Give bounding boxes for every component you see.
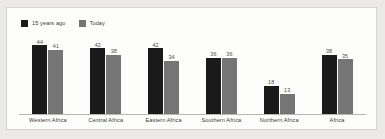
legend-swatch-15-years-ago [21, 20, 28, 27]
bar [48, 50, 63, 114]
bar-group: 4238 [77, 32, 135, 114]
x-axis-labels: Western AfricaCentral AfricaEastern Afri… [19, 117, 366, 123]
bar-column: 42 [148, 32, 163, 114]
bar-group: 4441 [19, 32, 77, 114]
bar-column: 34 [164, 32, 179, 114]
bar [264, 86, 279, 114]
bar-column: 41 [48, 32, 63, 114]
x-axis-label: Africa [308, 117, 366, 123]
bar [322, 55, 337, 114]
bar-column: 38 [322, 32, 337, 114]
bar-column: 36 [206, 32, 221, 114]
bar-group: 3636 [192, 32, 250, 114]
bar-column: 13 [280, 32, 295, 114]
legend-entry-today: Today [79, 20, 105, 27]
bar-value-label: 35 [342, 53, 348, 59]
bar-value-label: 34 [168, 54, 174, 60]
bar-column: 42 [90, 32, 105, 114]
bar-value-label: 36 [210, 51, 216, 57]
bar-value-label: 18 [268, 79, 274, 85]
bar-value-label: 42 [95, 42, 101, 48]
bar-value-label: 13 [284, 87, 290, 93]
bar-group: 1813 [250, 32, 308, 114]
bar-group: 3835 [308, 32, 366, 114]
bar [338, 59, 353, 114]
bar-column: 18 [264, 32, 279, 114]
legend-swatch-today [79, 20, 86, 27]
bar [148, 48, 163, 114]
bar [222, 58, 237, 114]
chart-card: 15 years ago Today 444142384234363618133… [6, 7, 377, 130]
x-axis-label: Western Africa [19, 117, 77, 123]
bar [280, 94, 295, 114]
x-axis-line [19, 114, 366, 115]
bar-value-label: 44 [37, 39, 43, 45]
bar-value-label: 38 [111, 48, 117, 54]
bar [164, 61, 179, 114]
bar-column: 36 [222, 32, 237, 114]
x-axis-label: Northern Africa [250, 117, 308, 123]
legend-entry-15-years-ago: 15 years ago [21, 20, 66, 27]
plot-area: 444142384234363618133835 [19, 32, 366, 114]
bar [106, 55, 121, 114]
bar-column: 44 [32, 32, 47, 114]
bar-value-label: 36 [226, 51, 232, 57]
bar-group: 4234 [135, 32, 193, 114]
bar-column: 35 [338, 32, 353, 114]
chart-legend: 15 years ago Today [21, 19, 105, 28]
bar [32, 45, 47, 114]
x-axis-label: Southern Africa [192, 117, 250, 123]
bar-value-label: 38 [326, 48, 332, 54]
bar [206, 58, 221, 114]
bar [90, 48, 105, 114]
x-axis-label: Central Africa [77, 117, 135, 123]
bar-value-label: 42 [152, 42, 158, 48]
x-axis-label: Eastern Africa [135, 117, 193, 123]
legend-label-15-years-ago: 15 years ago [32, 20, 66, 27]
bar-value-label: 41 [53, 43, 59, 49]
legend-label-today: Today [90, 20, 105, 27]
bar-column: 38 [106, 32, 121, 114]
